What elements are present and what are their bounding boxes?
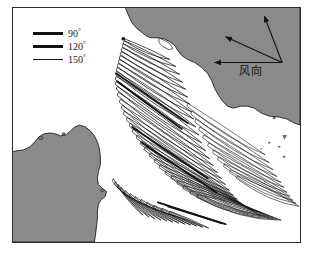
figure-root: 90° 120° 150° 风向	[0, 0, 312, 258]
wind-direction-label: 风向	[239, 62, 263, 78]
wind-rose	[13, 8, 300, 242]
map-frame: 90° 120° 150°	[12, 7, 301, 243]
